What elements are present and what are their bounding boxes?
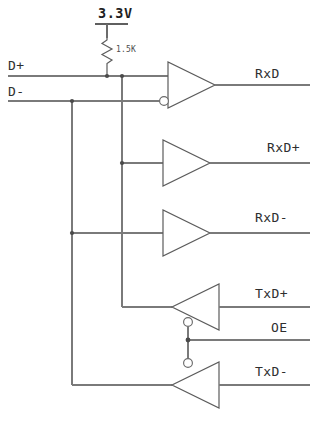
input-label-oe: OE xyxy=(271,320,287,335)
input-label-d-plus: D+ xyxy=(8,58,24,73)
rxd-plus-buffer-triangle-body xyxy=(163,140,210,186)
gate-tristate-txd-plus xyxy=(172,284,310,340)
txd-minus-enable-bubble xyxy=(184,359,193,368)
gate-tristate-txd-minus xyxy=(172,359,310,408)
junction-dot-d-minus-rxd-minus xyxy=(70,231,74,235)
output-label-rxd-minus: RxD- xyxy=(255,210,288,225)
supply-voltage-label: 3.3V xyxy=(98,5,133,21)
power-supply-group xyxy=(95,24,128,38)
junction-dot-d-plus-drop xyxy=(120,74,124,78)
input-label-d-minus: D- xyxy=(8,84,24,99)
junction-dot-oe xyxy=(186,338,191,343)
txd-plus-tristate-triangle-body xyxy=(172,284,219,330)
junction-dot-d-minus-drop xyxy=(70,99,74,103)
input-label-txd-minus: TxD- xyxy=(255,364,288,379)
resistor-zigzag-symbol xyxy=(102,38,112,76)
rxd-minus-buffer-triangle-body xyxy=(163,210,210,256)
output-label-rxd-plus: RxD+ xyxy=(267,140,300,155)
resistor-value-label: 1.5K xyxy=(116,45,136,54)
output-label-rxd: RxD xyxy=(255,66,280,81)
txd-minus-tristate-triangle-body xyxy=(172,362,219,408)
txd-plus-enable-bubble xyxy=(184,318,193,327)
gate-buffer-rxd-minus xyxy=(163,210,310,256)
circuit-schematic: 3.3V 1.5K D+ D- RxD RxD+ RxD- TxD+ OE Tx… xyxy=(0,0,315,426)
comparator-triangle-body xyxy=(168,62,215,108)
d-minus-net xyxy=(8,99,172,385)
d-plus-net xyxy=(8,74,172,307)
resistor-1k5-group xyxy=(102,38,112,76)
comparator-inverting-input-bubble xyxy=(160,97,169,106)
oe-net xyxy=(186,338,310,359)
junction-dot-d-plus-rxd-plus xyxy=(120,161,124,165)
gate-differential-comparator xyxy=(160,62,310,108)
junction-dot-resistor-d-plus xyxy=(105,74,109,78)
input-label-txd-plus: TxD+ xyxy=(255,286,288,301)
